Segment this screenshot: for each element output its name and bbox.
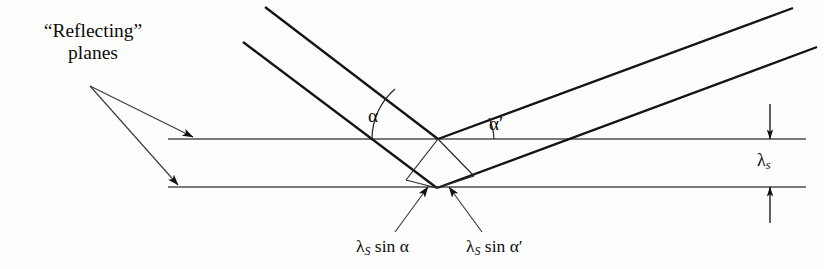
angle-label-alpha-prime: α′ [489,113,503,135]
leader-line-to-bottom-plane [90,86,178,185]
path-segment-reflected-foot [437,176,474,188]
leader-line-path-left [395,187,428,232]
incident-ray-outer [265,7,438,139]
path-segment-reflected-leg [438,139,474,176]
angle-label-alpha-text: α [368,105,378,126]
reflecting-planes-line2: planes [18,42,168,64]
path-label-leader-group [395,187,482,232]
path-difference-construction [406,139,474,188]
spacing-label: λs [757,150,771,172]
reflecting-planes-caption: “Reflecting” planes [18,20,168,65]
reflecting-planes-group [168,139,806,187]
angle-label-alpha-prime-text: α′ [489,113,503,134]
reflecting-planes-line1: “Reflecting” [44,20,143,41]
path-label-reflected: λS sin α′ [466,236,523,259]
spacing-label-subscript: s [766,158,771,172]
leader-line-path-right [449,187,482,232]
reflection-diagram-figure: “Reflecting” planes α α′ λs λS sin α λS … [0,0,824,269]
path-label-incident-rest: sin α [370,236,408,256]
path-label-reflected-rest: sin α′ [480,236,522,256]
spacing-label-lambda: λ [757,150,766,170]
incident-rays-group [243,7,438,188]
path-label-reflected-lambda: λ [466,236,475,256]
leader-line-to-top-plane [90,86,193,137]
angle-label-alpha: α [368,105,378,127]
caption-leader-group [90,86,193,185]
angle-arcs-group [372,89,494,139]
path-label-incident: λS sin α [356,236,409,259]
path-segment-incident-leg [406,139,438,180]
path-label-incident-lambda: λ [356,236,365,256]
